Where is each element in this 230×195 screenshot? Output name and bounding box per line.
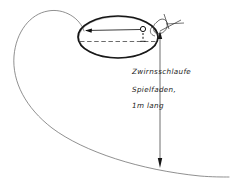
play-thread-curve xyxy=(14,10,229,177)
loop-label: Zwirnsschlaufe xyxy=(131,67,191,76)
thread-label: Spielfaden, xyxy=(132,85,176,94)
length-label: 1m lang xyxy=(132,101,164,110)
balloon-thread-diagram: Zwirnsschlaufe Spielfaden, 1m lang xyxy=(0,0,230,195)
balloon-valve xyxy=(140,26,145,41)
length-dimension-arrow xyxy=(158,31,162,168)
diagram-canvas: Zwirnsschlaufe Spielfaden, 1m lang xyxy=(0,0,230,195)
thread-knot xyxy=(150,14,184,36)
balloon-width-line xyxy=(85,28,140,32)
balloon-ellipse xyxy=(78,16,158,58)
